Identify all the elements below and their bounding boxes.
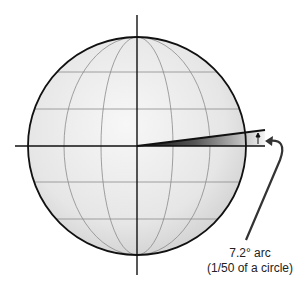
pointer-arrowhead-icon bbox=[265, 136, 273, 146]
pointer-arrow bbox=[246, 141, 282, 240]
arc-annotation-line1: 7.2° arc bbox=[198, 246, 302, 261]
arc-annotation-line2: (1/50 of a circle) bbox=[198, 261, 302, 276]
arc-annotation: 7.2° arc (1/50 of a circle) bbox=[198, 246, 302, 276]
